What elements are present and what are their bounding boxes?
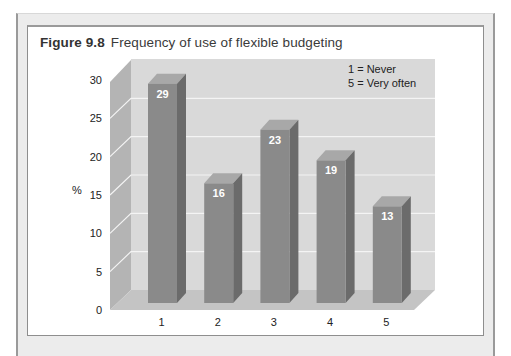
y-tick-label: 10 bbox=[90, 227, 102, 239]
bar-chart: 051015202530 % 1 = Never5 = Very often 2… bbox=[0, 0, 511, 356]
y-tick-label: 0 bbox=[96, 304, 102, 316]
legend-entry: 1 = Never bbox=[348, 63, 396, 75]
y-tick-label: 25 bbox=[90, 112, 102, 124]
x-tick-label: 2 bbox=[215, 316, 221, 328]
y-axis-ticks: 051015202530 bbox=[90, 74, 102, 316]
x-tick-label: 1 bbox=[158, 316, 164, 328]
bar-2: 16 bbox=[204, 173, 242, 303]
y-tick-label: 15 bbox=[90, 189, 102, 201]
x-axis-ticks: 12345 bbox=[158, 316, 389, 328]
bar-value-label: 23 bbox=[269, 134, 281, 146]
bar-value-label: 19 bbox=[325, 164, 337, 176]
y-tick-label: 20 bbox=[90, 151, 102, 163]
y-tick-label: 30 bbox=[90, 74, 102, 86]
y-axis-label: % bbox=[72, 184, 82, 196]
x-tick-label: 3 bbox=[271, 316, 277, 328]
legend-entry: 5 = Very often bbox=[348, 77, 416, 89]
bar-4: 19 bbox=[317, 150, 355, 303]
bar-3: 23 bbox=[260, 120, 298, 303]
bar-value-label: 16 bbox=[213, 187, 225, 199]
x-tick-label: 5 bbox=[383, 316, 389, 328]
y-tick-label: 5 bbox=[96, 266, 102, 278]
bar-value-label: 13 bbox=[381, 210, 393, 222]
bar-1: 29 bbox=[148, 74, 186, 303]
bar-value-label: 29 bbox=[156, 88, 168, 100]
bar-5: 13 bbox=[373, 196, 411, 303]
x-tick-label: 4 bbox=[327, 316, 333, 328]
